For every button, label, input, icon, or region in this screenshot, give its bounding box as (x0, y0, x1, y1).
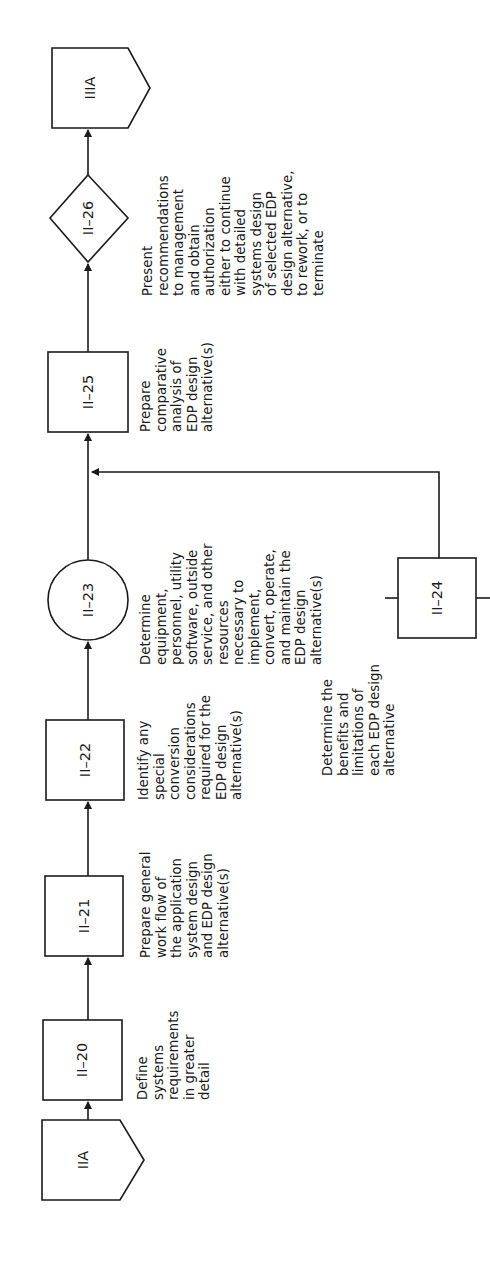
description-II25: Prepare comparative analysis of EDP desi… (138, 342, 216, 432)
process-II21-label: II–21 (74, 886, 94, 946)
flowchart: IIIA II–26 II–25 II–23 II–22 II–21 II–20… (0, 0, 490, 1275)
description-II21: Prepare general work flow of the applica… (138, 852, 231, 958)
connector-IIA-label: IIA (73, 1130, 93, 1190)
decision-II26-label: II–26 (78, 188, 98, 248)
connector-IIIA-label: IIIA (80, 58, 100, 118)
process-II22-label: II–22 (75, 730, 95, 790)
description-II20: Define systems requirements in greater d… (135, 1011, 213, 1100)
description-II24: Determine the benefits and limitations o… (320, 664, 398, 776)
connector-IIA-shape (42, 1120, 144, 1200)
process-II20-label: II–20 (72, 1030, 92, 1090)
description-II23: Determine equipment, personnel, utility … (138, 543, 324, 665)
connector-IIIA-shape (52, 48, 150, 128)
circle-II23-label: II–23 (78, 570, 98, 630)
description-II22: Identify any special conversion consider… (136, 695, 245, 800)
description-II26: Present recommendations to management an… (140, 171, 326, 296)
process-II24-label: II–24 (427, 568, 447, 628)
process-II25-label: II–25 (78, 362, 98, 422)
